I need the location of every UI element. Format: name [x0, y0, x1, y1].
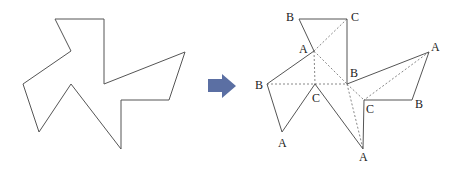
dashed-cut-line [314, 19, 347, 51]
vertex-label-b: B [350, 66, 358, 80]
vertex-label-b: B [286, 10, 294, 24]
vertex-label-a: A [278, 136, 287, 150]
vertex-label-c: C [351, 10, 359, 24]
vertex-label-c: C [366, 102, 374, 116]
dashed-cut-line [364, 52, 429, 100]
dashed-cut-line [314, 51, 315, 84]
vertex-label-a: A [359, 150, 368, 164]
vertex-label-b: B [415, 97, 423, 111]
vertex-label-b: B [255, 78, 263, 92]
dashed-cut-line [347, 84, 364, 100]
original-polygon [23, 19, 185, 149]
dashed-cut-line [347, 84, 363, 149]
vertex-label-a: A [431, 40, 440, 54]
diagram-canvas: BCABBCACBAA [0, 0, 460, 174]
vertex-label-c: C [312, 91, 320, 105]
dashed-cut-line [314, 51, 347, 84]
right-arrow-icon [208, 74, 236, 98]
vertex-label-a: A [299, 42, 308, 56]
